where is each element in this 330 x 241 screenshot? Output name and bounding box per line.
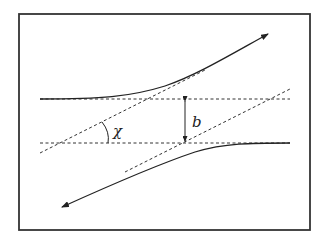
impact-parameter-label: b [192, 113, 202, 131]
angle-arc [102, 122, 108, 143]
upper-incoming-trajectory [40, 34, 268, 99]
frame [19, 14, 310, 230]
lower-trajectory [62, 143, 290, 207]
lower-dashed-asymptote [125, 89, 290, 172]
upper-dashed-asymptote [40, 70, 205, 153]
scattering-diagram: χ b [0, 0, 330, 241]
angle-label: χ [112, 122, 123, 140]
